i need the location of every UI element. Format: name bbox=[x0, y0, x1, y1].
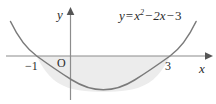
equation-term3: 3 bbox=[175, 8, 182, 23]
parabola-plot bbox=[0, 0, 216, 104]
root-label-left: −1 bbox=[25, 60, 38, 72]
equation-operator-2: − bbox=[166, 8, 175, 23]
x-axis-arrowhead bbox=[205, 52, 213, 60]
origin-label: O bbox=[57, 57, 66, 69]
equation-lhs: y bbox=[119, 8, 125, 23]
equation-equals: = bbox=[125, 8, 134, 23]
root-label-right: 3 bbox=[165, 60, 171, 72]
equation-term2: 2x bbox=[153, 8, 165, 23]
y-axis-label: y bbox=[57, 8, 63, 21]
parabola-figure: y x O −1 3 y=x2−2x−3 bbox=[0, 0, 216, 104]
curve-equation-label: y=x2−2x−3 bbox=[119, 9, 181, 22]
x-axis-label: x bbox=[199, 62, 205, 75]
equation-operator-1: − bbox=[144, 8, 153, 23]
y-axis-arrowhead bbox=[67, 7, 75, 15]
